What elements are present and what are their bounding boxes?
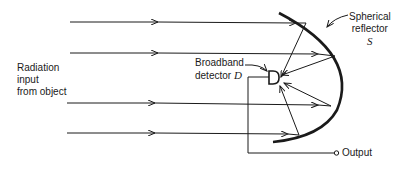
reflector-label-line2: reflector <box>349 23 391 35</box>
radiation-input-label-line2: input <box>17 74 66 86</box>
incoming-ray-4-segment-b <box>155 133 288 134</box>
reflector-label: Spherical reflector S <box>349 11 391 47</box>
radiation-input-label-line3: from object <box>17 86 66 98</box>
incoming-ray-1-segment-b <box>158 22 296 23</box>
reflector-leader-arrow <box>327 15 348 27</box>
detector-leader-arrow <box>245 65 267 71</box>
output-label: Output <box>342 147 372 159</box>
reflected-ray-4 <box>280 86 299 135</box>
broadband-detector-icon <box>269 71 279 84</box>
detector-symbol: D <box>234 69 242 81</box>
detector-label-text: detector <box>195 70 234 81</box>
reflected-rays <box>280 23 335 135</box>
detector-label-line1: Broadband <box>195 57 244 69</box>
reflector-symbol: S <box>349 35 391 47</box>
detector-label-line2: detector D <box>195 69 244 82</box>
radiation-input-label-line1: Radiation <box>17 62 66 74</box>
detector-label: Broadband detector D <box>195 57 244 82</box>
spherical-reflector <box>273 13 342 142</box>
reflected-ray-1 <box>281 23 306 77</box>
output-terminal-icon <box>334 151 338 155</box>
reflected-ray-3 <box>284 83 331 106</box>
incoming-ray-2-segment-b <box>158 53 318 54</box>
radiation-input-label: Radiation input from object <box>17 62 66 98</box>
incoming-ray-3-segment-b <box>155 103 318 105</box>
reflector-label-line1: Spherical <box>349 11 391 23</box>
incoming-ray-4-tail <box>288 134 299 135</box>
